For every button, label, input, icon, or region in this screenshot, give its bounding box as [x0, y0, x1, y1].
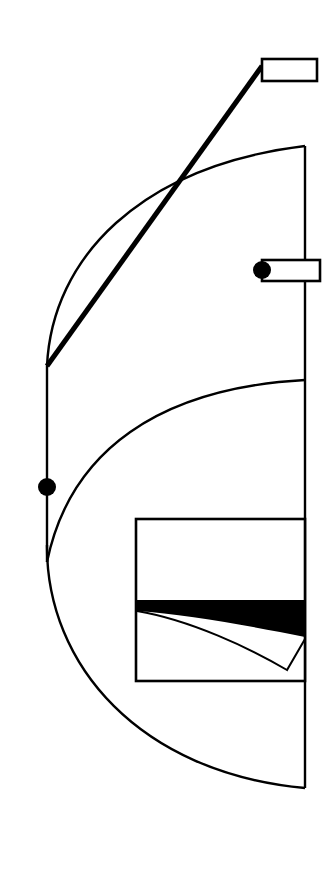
node-dot-left [38, 478, 56, 496]
figure-root [0, 0, 332, 876]
callout-top-box[interactable] [262, 59, 317, 81]
callout-middle[interactable] [253, 260, 320, 281]
line-drawing-canvas [0, 0, 332, 876]
inner-panel-group [136, 519, 305, 681]
callout-top[interactable] [262, 59, 317, 81]
callout-middle-terminal-dot [253, 261, 271, 279]
